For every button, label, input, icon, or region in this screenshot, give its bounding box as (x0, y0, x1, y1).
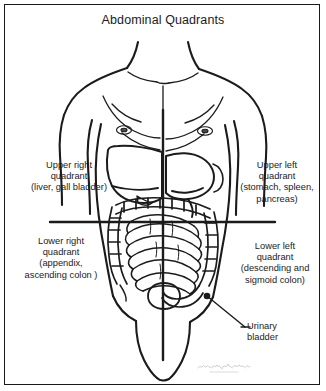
label-upper-left-quadrant: Upper leftquadrant(stomach, spleen,pancr… (230, 160, 324, 205)
appendix (120, 285, 126, 301)
nipple-left (117, 126, 132, 134)
label-urinary-bladder: Urinarybladder (247, 321, 317, 343)
artist-signature-watermark (196, 361, 252, 374)
bladder-leader-line (207, 296, 245, 327)
label-lower-right-quadrant: Lower rightquadrant(appendix,ascending c… (2, 236, 120, 281)
label-upper-right-quadrant: Upper rightquadrant(liver, gall bladder) (8, 160, 130, 194)
label-lower-left-quadrant: Lower leftquadrant(descending andsigmoid… (226, 241, 324, 286)
abdominal-quadrants-figure: Abdominal Quadrants (0, 0, 326, 391)
nipple-right (198, 127, 213, 135)
